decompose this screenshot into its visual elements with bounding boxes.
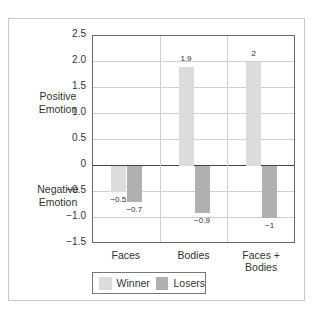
positive-label-line1: Positive [28,90,88,103]
bar-winner [179,67,194,166]
legend-losers-label: Losers [173,277,205,289]
legend: Winner Losers [92,272,206,294]
category-divider [160,36,161,242]
data-label: 1.9 [171,54,201,63]
y-tick-label: 2.0 [46,54,86,65]
data-label: −0.7 [119,205,149,214]
x-category-label: Bodies [160,249,228,261]
legend-winner-label: Winner [117,277,150,289]
y-tick-label: 1.5 [46,80,86,91]
bar-losers [195,166,210,213]
data-label: −0.9 [187,216,217,225]
bar-losers [127,166,142,202]
data-label: 2 [239,49,269,58]
y-tick-label: −0.5 [46,184,86,195]
x-category-label: Faces [92,249,160,261]
y-tick-label: 1.0 [46,106,86,117]
category-divider [227,36,228,242]
plot-area: −0.5−0.71.9−0.92−1 [92,35,295,243]
negative-label-line2: Emotion [28,196,88,209]
bar-winner [246,62,261,166]
bar-losers [262,166,277,218]
gridline [93,139,294,140]
y-tick-label: −1.0 [46,210,86,221]
gridline [93,87,294,88]
y-tick-label: 0.5 [46,132,86,143]
y-tick-label: 2.5 [46,28,86,39]
x-category-label: Faces + Bodies [227,249,295,273]
y-tick-label: 0 [46,158,86,169]
bar-winner [111,166,126,192]
losers-swatch [156,277,169,290]
data-label: −1 [255,221,285,230]
y-tick-label: −1.5 [46,236,86,247]
gridline [93,113,294,114]
winner-swatch [99,277,112,290]
